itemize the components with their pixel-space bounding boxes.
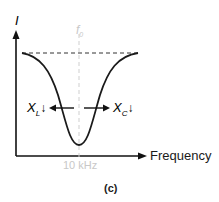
x-axis-arrowhead-icon — [138, 153, 147, 160]
xl-symbol: X — [27, 100, 36, 115]
y-axis-label: I — [15, 14, 19, 27]
xl-down-arrow-icon: ↓ — [40, 101, 46, 115]
resonant-subscript: 0 — [79, 31, 83, 38]
left-arrow-icon — [49, 105, 56, 112]
resonant-frequency-value: 10 kHz — [63, 160, 97, 171]
right-arrow-icon — [103, 105, 110, 112]
x-axis-label: Frequency — [150, 149, 211, 162]
inductive-reactance-label: XL↓ — [27, 101, 46, 118]
capacitive-reactance-label: XC↓ — [113, 101, 133, 118]
current-curve — [22, 53, 138, 145]
xc-down-arrow-icon: ↓ — [127, 101, 133, 115]
xc-symbol: X — [113, 100, 122, 115]
y-axis-arrowhead-icon — [13, 30, 20, 39]
resonant-frequency-label: f0 — [76, 24, 83, 38]
figure-caption: (c) — [104, 183, 117, 194]
